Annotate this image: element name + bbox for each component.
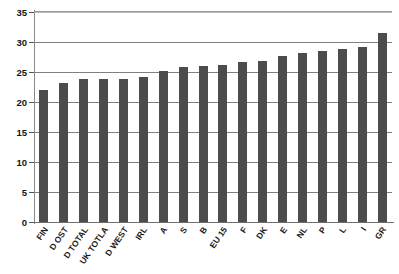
x-axis-labels: FIND OSTD TOTALUK TOTLAD WESTIRLASBEU 15… bbox=[34, 223, 392, 273]
y-tick-30: 30 bbox=[0, 42, 34, 43]
bar-a bbox=[159, 71, 168, 222]
x-axis-label-text: DK bbox=[254, 225, 269, 241]
x-axis-label-text: I bbox=[359, 225, 369, 233]
bar-nl bbox=[298, 53, 307, 222]
y-tick-label: 25 bbox=[16, 67, 27, 78]
x-axis-label-text: A bbox=[158, 225, 170, 236]
bar-fin bbox=[39, 90, 48, 222]
bar-p bbox=[318, 51, 327, 222]
x-axis-label-l: L bbox=[340, 221, 351, 231]
bar-slot bbox=[34, 12, 54, 222]
bar-slot bbox=[352, 12, 372, 222]
bar-d-ost bbox=[59, 83, 68, 222]
bar-slot bbox=[133, 12, 153, 222]
bar-chart: 35302520151050 FIND OSTD TOTALUK TOTLAD … bbox=[0, 0, 399, 274]
bar-slot bbox=[213, 12, 233, 222]
bar-slot bbox=[173, 12, 193, 222]
bar-slot bbox=[273, 12, 293, 222]
y-tick-label: 10 bbox=[16, 157, 27, 168]
chart-title bbox=[150, 0, 350, 9]
bar-slot bbox=[312, 12, 332, 222]
bar-series bbox=[34, 12, 392, 222]
bar-d-total bbox=[79, 79, 88, 222]
x-label-slot: A bbox=[153, 223, 173, 273]
bar-f bbox=[238, 62, 247, 222]
bar-slot bbox=[153, 12, 173, 222]
x-label-slot: I bbox=[352, 223, 372, 273]
bar-slot bbox=[233, 12, 253, 222]
x-axis-label-text: P bbox=[317, 225, 328, 235]
bar-l bbox=[338, 49, 347, 222]
x-label-slot: GR bbox=[372, 223, 392, 273]
y-tick-35: 35 bbox=[0, 12, 34, 13]
bar-b bbox=[199, 66, 208, 222]
x-label-slot: IRL bbox=[133, 223, 153, 273]
bar-slot bbox=[253, 12, 273, 222]
x-label-slot: S bbox=[173, 223, 193, 273]
bar-slot bbox=[332, 12, 352, 222]
bar-dk bbox=[258, 61, 267, 222]
y-tick-label: 0 bbox=[22, 217, 27, 228]
x-axis-label-text: E bbox=[277, 225, 288, 235]
x-axis-label-text: F bbox=[238, 225, 249, 235]
x-label-slot: EU 15 bbox=[213, 223, 233, 273]
y-tick-5: 5 bbox=[0, 192, 34, 193]
x-axis-label-text: S bbox=[178, 225, 189, 235]
x-axis-label-text: FIN bbox=[34, 225, 50, 242]
x-label-slot: DK bbox=[253, 223, 273, 273]
x-label-slot: F bbox=[233, 223, 253, 273]
bar-e bbox=[278, 56, 287, 222]
bar-s bbox=[179, 67, 188, 222]
y-tick-label: 5 bbox=[22, 187, 27, 198]
x-axis-label-text: GR bbox=[373, 225, 389, 241]
bar-eu-15 bbox=[218, 65, 227, 222]
x-label-slot: D WEST bbox=[114, 223, 134, 273]
plot-area: 35302520151050 bbox=[34, 12, 392, 222]
x-axis-label-text: IRL bbox=[134, 225, 150, 242]
bar-slot bbox=[74, 12, 94, 222]
y-tick-15: 15 bbox=[0, 132, 34, 133]
x-label-slot: NL bbox=[293, 223, 313, 273]
y-tick-label: 30 bbox=[16, 37, 27, 48]
x-label-slot: L bbox=[332, 223, 352, 273]
y-tick-0: 0 bbox=[0, 222, 34, 223]
bar-i bbox=[358, 47, 367, 222]
bar-gr bbox=[378, 33, 387, 222]
bar-slot bbox=[54, 12, 74, 222]
bar-slot bbox=[94, 12, 114, 222]
x-axis-label-text: B bbox=[198, 225, 210, 236]
x-axis-label-text: L bbox=[337, 225, 348, 235]
y-tick-label: 35 bbox=[16, 7, 27, 18]
x-axis-label-f: F bbox=[241, 221, 252, 231]
y-tick-label: 20 bbox=[16, 97, 27, 108]
y-tick-20: 20 bbox=[0, 102, 34, 103]
x-label-slot: P bbox=[312, 223, 332, 273]
x-axis-label-text: NL bbox=[294, 225, 309, 240]
x-axis-label-i: I bbox=[360, 223, 370, 231]
bar-slot bbox=[114, 12, 134, 222]
y-tick-25: 25 bbox=[0, 72, 34, 73]
bar-slot bbox=[293, 12, 313, 222]
x-label-slot: E bbox=[273, 223, 293, 273]
y-tick-10: 10 bbox=[0, 162, 34, 163]
bar-slot bbox=[372, 12, 392, 222]
bar-slot bbox=[193, 12, 213, 222]
y-tick-label: 15 bbox=[16, 127, 27, 138]
x-label-slot: B bbox=[193, 223, 213, 273]
